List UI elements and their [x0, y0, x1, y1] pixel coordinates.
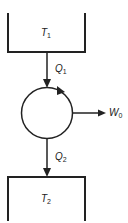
cold-reservoir-label: T2	[41, 193, 51, 205]
engine-cycle	[22, 86, 73, 139]
heat-engine-diagram: T1 Q1 W0 Q2 T2	[0, 0, 128, 223]
heat-out-arrow: Q2	[43, 139, 67, 178]
hot-reservoir: T1	[8, 13, 85, 52]
cold-reservoir: T2	[8, 177, 85, 221]
heat-out-label: Q2	[55, 151, 67, 163]
hot-reservoir-label: T1	[41, 27, 51, 39]
work-out-label: W0	[109, 107, 122, 119]
heat-in-label: Q1	[55, 63, 67, 75]
heat-in-arrow: Q1	[43, 52, 67, 88]
work-out-arrow: W0	[73, 107, 123, 119]
